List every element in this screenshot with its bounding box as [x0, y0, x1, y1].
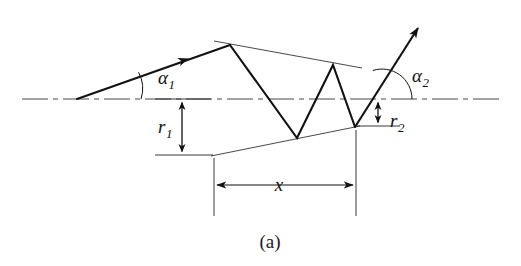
alpha2-label: α2: [412, 65, 429, 90]
alpha1-label: α1: [158, 67, 175, 92]
alpha2-subscript: 2: [422, 75, 429, 90]
ray-diagram-svg: α1 α2 r1 r2 x (a): [0, 0, 521, 266]
r1-label: r1: [158, 116, 172, 141]
r1-subscript: 1: [166, 126, 173, 141]
x-label: x: [274, 174, 284, 195]
alpha1-symbol: α: [158, 67, 169, 88]
alpha2-symbol: α: [412, 65, 423, 86]
figure-container: α1 α2 r1 r2 x (a): [0, 0, 521, 266]
r2-symbol: r: [390, 110, 398, 131]
incoming-ray: [77, 45, 230, 99]
incoming-ray-direction-arrow: [150, 59, 188, 72]
zigzag-reflection-path: [230, 45, 355, 138]
lower-boundary-line: [211, 126, 360, 156]
r2-subscript: 2: [398, 120, 405, 135]
outgoing-ray: [355, 28, 418, 127]
alpha1-subscript: 1: [168, 77, 175, 92]
figure-caption: (a): [259, 231, 280, 253]
r1-symbol: r: [158, 116, 166, 137]
r2-label: r2: [390, 110, 405, 135]
alpha2-angle-arc: [373, 69, 412, 99]
